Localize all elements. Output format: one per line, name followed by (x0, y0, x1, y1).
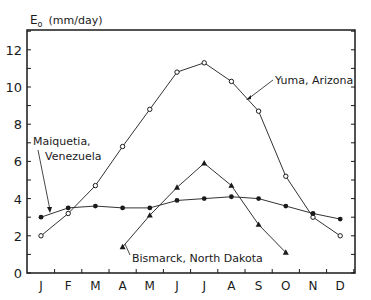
arrow-head-icon (47, 207, 52, 213)
filled-circle-marker-icon (229, 194, 234, 199)
filled-circle-marker-icon (311, 211, 316, 216)
annotation-maiquetia-1: Maiquetia, (33, 135, 91, 148)
x-tick-label: F (65, 279, 72, 293)
y-tick-label: 0 (14, 266, 22, 281)
annotation-bismarck: Bismarck, North Dakota (132, 252, 263, 265)
x-tick-label: J (38, 279, 43, 293)
open-circle-marker-icon (284, 174, 288, 178)
open-circle-marker-icon (256, 109, 260, 113)
y-tick-label: 2 (14, 229, 22, 244)
y-tick-label: 12 (5, 43, 22, 58)
open-circle-marker-icon (229, 79, 233, 83)
open-circle-marker-icon (39, 234, 43, 238)
leader-yuma (248, 80, 273, 99)
annotation-maiquetia-2: Venezuela (45, 150, 102, 163)
x-tick-label: M (90, 279, 100, 293)
x-tick-label: A (118, 279, 127, 293)
y-axis-title: Eo(mm/day) (30, 13, 102, 29)
x-tick-label: S (255, 279, 263, 293)
x-tick-label: M (145, 279, 155, 293)
open-circle-marker-icon (175, 70, 179, 74)
open-circle-marker-icon (202, 61, 206, 65)
open-circle-marker-icon (66, 211, 70, 215)
open-circle-marker-icon (148, 107, 152, 111)
triangle-marker-icon (201, 160, 207, 165)
x-tick-label: A (227, 279, 236, 293)
x-tick-label: J (174, 279, 179, 293)
open-circle-marker-icon (338, 234, 342, 238)
x-tick-label: J (201, 279, 206, 293)
y-tick-label: 4 (14, 192, 22, 207)
x-tick-label: N (309, 279, 318, 293)
leader-bismarck (125, 244, 130, 255)
filled-circle-marker-icon (147, 206, 152, 211)
filled-circle-marker-icon (66, 206, 71, 211)
y-tick-label: 10 (5, 80, 22, 95)
open-circle-marker-icon (120, 144, 124, 148)
y-tick-label: 6 (14, 154, 22, 169)
x-tick-label: D (336, 279, 345, 293)
filled-circle-marker-icon (338, 217, 343, 222)
filled-circle-marker-icon (175, 198, 180, 203)
filled-circle-marker-icon (283, 204, 288, 209)
filled-circle-marker-icon (256, 196, 261, 201)
open-circle-marker-icon (93, 183, 97, 187)
annotation-yuma: Yuma, Arizona (274, 74, 353, 87)
filled-circle-marker-icon (202, 196, 207, 201)
evaporation-chart: Eo(mm/day) 024681012 JFMAMJJASOND Yuma, … (0, 0, 371, 300)
triangle-marker-icon (228, 182, 234, 187)
y-tick-label: 8 (14, 117, 22, 132)
filled-circle-marker-icon (39, 215, 44, 220)
x-tick-label: O (281, 279, 290, 293)
series-line (41, 197, 340, 219)
filled-circle-marker-icon (120, 206, 125, 211)
filled-circle-marker-icon (93, 204, 98, 209)
